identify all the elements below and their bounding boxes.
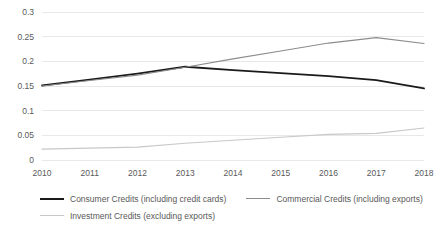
x-axis-tick-label: 2017 xyxy=(356,168,396,178)
legend-label: Consumer Credits (including credit cards… xyxy=(70,194,226,204)
legend-row-2: Investment Credits (excluding exports) xyxy=(0,207,428,224)
y-axis-tick-label: 0.25 xyxy=(4,32,34,42)
y-axis-tick-label: 0 xyxy=(4,155,34,165)
x-axis-tick-label: 2014 xyxy=(213,168,253,178)
legend-item[interactable]: Investment Credits (excluding exports) xyxy=(40,211,215,221)
legend-label: Investment Credits (excluding exports) xyxy=(70,211,215,221)
y-axis-tick-label: 0.2 xyxy=(4,56,34,66)
gridlines xyxy=(42,12,424,160)
x-axis-tick-label: 2015 xyxy=(261,168,301,178)
y-axis-tick-label: 0.1 xyxy=(4,106,34,116)
legend-line-swatch xyxy=(246,198,270,199)
series-line xyxy=(42,67,424,89)
legend-item[interactable]: Commercial Credits (including exports) xyxy=(246,194,422,204)
x-axis-tick-label: 2016 xyxy=(309,168,349,178)
series-lines xyxy=(42,38,424,149)
x-axis-tick-label: 2011 xyxy=(70,168,110,178)
chart-legend: Consumer Credits (including credit cards… xyxy=(0,190,428,224)
legend-label: Commercial Credits (including exports) xyxy=(276,194,422,204)
legend-line-swatch xyxy=(40,198,64,200)
legend-line-swatch xyxy=(40,215,64,216)
series-line xyxy=(42,128,424,149)
y-axis-tick-label: 0.05 xyxy=(4,130,34,140)
x-axis-tick-label: 2018 xyxy=(404,168,438,178)
x-axis-tick-label: 2010 xyxy=(22,168,62,178)
y-axis-tick-label: 0.15 xyxy=(4,81,34,91)
x-axis-tick-label: 2013 xyxy=(165,168,205,178)
x-axis-tick-label: 2012 xyxy=(118,168,158,178)
legend-item[interactable]: Consumer Credits (including credit cards… xyxy=(40,194,226,204)
y-axis-tick-label: 0.3 xyxy=(4,7,34,17)
legend-row-1: Consumer Credits (including credit cards… xyxy=(0,190,428,207)
